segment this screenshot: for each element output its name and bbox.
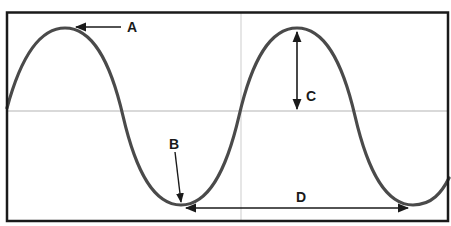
wave-diagram: A B C D xyxy=(0,0,451,226)
label-c: C xyxy=(306,88,316,104)
label-a: A xyxy=(127,19,137,35)
diagram-background xyxy=(0,0,451,226)
label-b: B xyxy=(169,136,179,152)
label-d: D xyxy=(296,189,306,205)
